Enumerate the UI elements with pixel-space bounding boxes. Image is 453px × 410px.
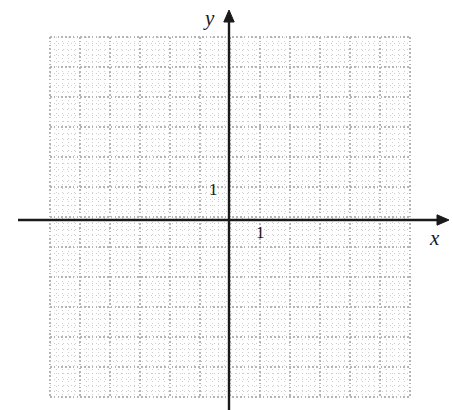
x-axis-label: x [430,228,439,249]
graph-figure: y x 1 1 [0,0,453,410]
axis-lines [0,0,453,410]
y-axis-label: y [205,8,214,29]
x-axis-tick-label-1: 1 [256,224,265,241]
y-axis-tick-label-1: 1 [209,181,218,198]
